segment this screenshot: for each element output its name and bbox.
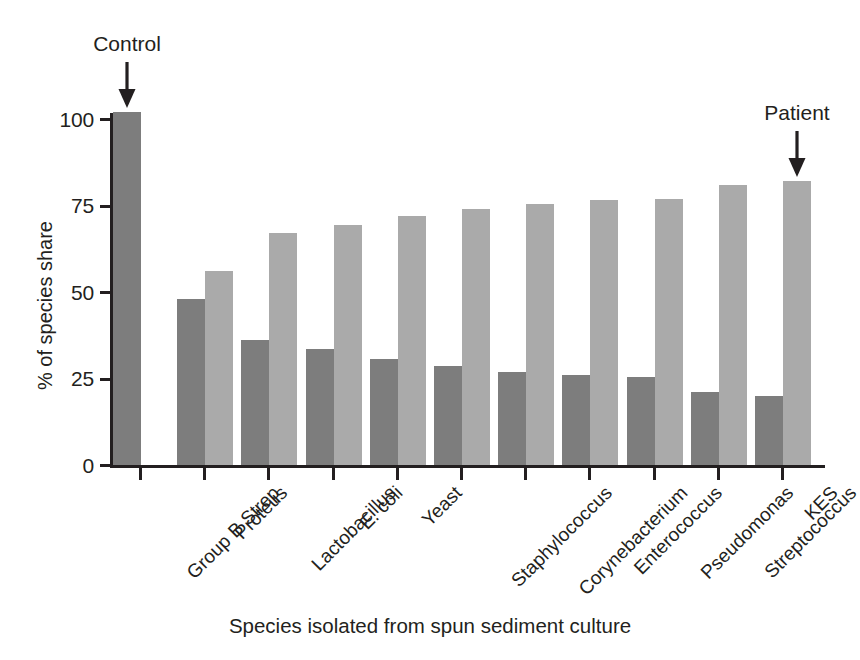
x-tick-1 bbox=[203, 468, 206, 480]
x-tick-4 bbox=[396, 468, 399, 480]
category-label-1: Proteus bbox=[230, 482, 292, 544]
bar-chart-figure: 0255075100 % of species share Group B St… bbox=[0, 0, 860, 660]
bar-10-light bbox=[783, 181, 811, 465]
x-tick-3 bbox=[332, 468, 335, 480]
bar-1-dark bbox=[177, 299, 205, 465]
bar-3-dark bbox=[306, 349, 334, 465]
category-label-6: Corynebacterium bbox=[575, 482, 693, 600]
bar-4-dark bbox=[370, 359, 398, 465]
annotation-arrow-control bbox=[113, 62, 141, 112]
x-tick-9 bbox=[717, 468, 720, 480]
bar-6-light bbox=[526, 204, 554, 465]
y-tick-label-50: 50 bbox=[71, 281, 94, 305]
bar-7-dark bbox=[562, 375, 590, 465]
category-label-9: Streptococcus bbox=[760, 482, 860, 583]
x-tick-5 bbox=[460, 468, 463, 480]
category-label-5: Staphylococcus bbox=[507, 482, 617, 592]
x-tick-0 bbox=[139, 468, 142, 480]
annotation-label-patient: Patient bbox=[764, 101, 829, 125]
bar-8-dark bbox=[627, 377, 655, 465]
y-tick-label-25: 25 bbox=[71, 367, 94, 391]
bar-5-dark bbox=[434, 366, 462, 465]
bar-9-light bbox=[719, 185, 747, 465]
bar-7-light bbox=[590, 200, 618, 465]
bar-6-dark bbox=[498, 372, 526, 465]
category-label-10: KES bbox=[800, 482, 842, 524]
bar-5-light bbox=[462, 209, 490, 465]
bar-3-light bbox=[334, 225, 362, 465]
y-axis-title-text: % of species share bbox=[34, 221, 57, 390]
x-axis-title: Species isolated from spun sediment cult… bbox=[0, 614, 860, 638]
bar-2-dark bbox=[241, 340, 269, 465]
category-label-8: Pseudomonas bbox=[696, 482, 797, 583]
y-tick-label-100: 100 bbox=[60, 108, 94, 132]
x-tick-6 bbox=[524, 468, 527, 480]
category-label-3: E. coli bbox=[355, 482, 407, 534]
bar-4-light bbox=[398, 216, 426, 465]
x-tick-2 bbox=[267, 468, 270, 480]
category-label-2: Lactobacillus bbox=[308, 482, 401, 575]
x-tick-10 bbox=[781, 468, 784, 480]
category-label-7: Enterococcus bbox=[630, 482, 727, 579]
annotation-label-control: Control bbox=[93, 32, 161, 56]
bar-2-light bbox=[269, 233, 297, 465]
bars-layer bbox=[110, 100, 825, 465]
category-label-0: Group B Strep bbox=[183, 482, 284, 583]
bar-0-dark bbox=[113, 112, 141, 465]
category-label-4: Yeast bbox=[418, 482, 467, 531]
bar-10-dark bbox=[755, 396, 783, 465]
y-tick-label-75: 75 bbox=[71, 194, 94, 218]
bar-8-light bbox=[655, 199, 683, 465]
bar-1-light bbox=[205, 271, 233, 465]
annotation-arrow-patient bbox=[783, 131, 811, 181]
y-tick-label-0: 0 bbox=[83, 454, 94, 478]
bar-9-dark bbox=[691, 392, 719, 465]
x-tick-8 bbox=[653, 468, 656, 480]
x-tick-7 bbox=[588, 468, 591, 480]
